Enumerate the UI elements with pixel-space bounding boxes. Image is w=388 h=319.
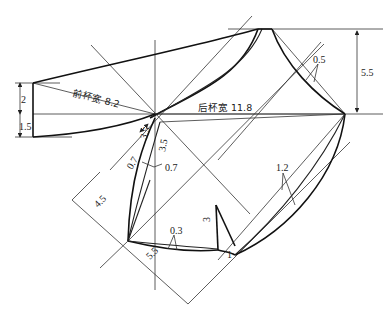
- dart-offset-label: 1: [227, 249, 232, 260]
- dim-45-tick: [72, 172, 100, 200]
- diagonal-line-b: [110, 16, 252, 170]
- dim-05-label: 0.5: [313, 54, 326, 65]
- dart-left-leg: [216, 205, 218, 250]
- tangent-line-r: [218, 114, 345, 260]
- dim-07-leader: [142, 162, 162, 167]
- diamond-right-edge: [188, 142, 350, 304]
- front-cup-width-label: 前杯宽 8.2: [72, 87, 121, 109]
- top-right-straight: [272, 29, 345, 114]
- back-cup-width-label: 后杯宽 11.8: [198, 102, 252, 113]
- dart-right-leg: [216, 205, 235, 246]
- dim-left-lower-label: 1.5: [19, 121, 32, 132]
- diagonal-line-d: [218, 42, 321, 160]
- dim-center-a-label: 3.5: [138, 125, 153, 141]
- right-lower-curve: [235, 114, 345, 255]
- dim-45-label: 4.5: [92, 193, 109, 210]
- dim-center-b-label: 3.5: [156, 138, 169, 153]
- dim-left-upper-label: 2: [21, 94, 26, 105]
- dim-07-right-label: 0.7: [165, 162, 178, 173]
- dim-right-label: 5.5: [361, 67, 374, 78]
- dim-03-leader: [168, 235, 177, 250]
- right-lower-curve-inner: [235, 114, 345, 255]
- diagonal-line-a: [91, 45, 250, 214]
- dimension-markers: [15, 31, 357, 250]
- construction-lines: [33, 16, 383, 304]
- left-cup-straight: [128, 180, 150, 241]
- dim-03-label: 0.3: [170, 225, 183, 236]
- bra-cup-pattern-diagram: 前杯宽 8.2 后杯宽 11.8 2 1.5 5.5 0.5 3.5 3.5 0…: [0, 0, 388, 319]
- lower-front-curve: [33, 114, 155, 137]
- dim-05-leader: [306, 64, 318, 82]
- dart-length-label: 3: [201, 217, 212, 222]
- bottom-curve-inner: [128, 241, 218, 249]
- lower-tangent: [100, 241, 128, 268]
- pattern-outlines: [33, 29, 345, 255]
- dim-12-label: 1.2: [276, 162, 289, 173]
